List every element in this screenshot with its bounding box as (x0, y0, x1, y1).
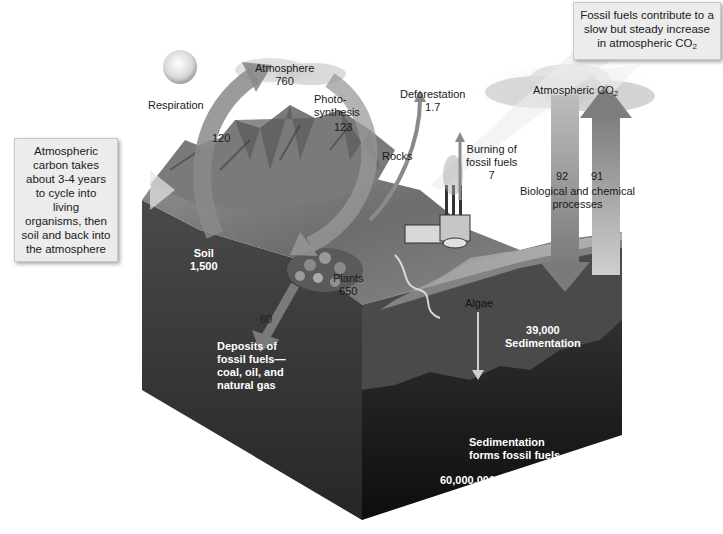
rocks-label: Rocks (382, 150, 413, 163)
callout-line: carbon takes (21, 158, 111, 172)
callout-line: the atmosphere (21, 242, 111, 256)
callout-line: slow but steady increase (580, 22, 714, 36)
atmosphere-value: 760 (255, 75, 314, 88)
ocean-uptake-value: 92 (556, 170, 568, 183)
sedimentation-value: 39,000 (505, 324, 581, 337)
algae-label: Algae (465, 297, 493, 310)
fossil-fuels-callout: Fossil fuels contribute to a slow but st… (573, 2, 721, 60)
sedimentation-label: 39,000 Sedimentation (505, 324, 581, 350)
deposits-value: 60 (260, 313, 272, 326)
soil-value: 1,500 (190, 260, 218, 273)
sedimentation-fossil-label: Sedimentation forms fossil fuels. (469, 436, 563, 462)
callout-line: Fossil fuels contribute to a (580, 8, 714, 22)
biological-chemical-label: Biological and chemical processes (520, 185, 635, 211)
respiration-value: 120 (212, 132, 230, 145)
callout-line: soil and back into (21, 228, 111, 242)
plants-label: Plants 650 (333, 272, 364, 298)
deforestation-label: Deforestation 1.7 (400, 88, 465, 114)
photosynthesis-label: Photo- synthesis (314, 93, 360, 119)
respiration-label: Respiration (148, 99, 204, 112)
carbon-cycle-illustration (0, 0, 723, 534)
sun-icon (163, 50, 197, 84)
atmosphere-label: Atmosphere 760 (255, 62, 314, 88)
deep-carbon-value: 60,000,000 (440, 474, 495, 487)
atmospheric-co2-label: Atmospheric CO2 (533, 84, 618, 100)
callout-line: to cycle into living (21, 186, 111, 214)
plants-value: 650 (333, 285, 364, 298)
soil-label: Soil 1,500 (190, 247, 218, 273)
callout-line: organisms, then (21, 214, 111, 228)
deposits-label: Deposits of fossil fuels— coal, oil, and… (217, 340, 285, 392)
burning-fossil-fuels-label: Burning of fossil fuels 7 (466, 143, 517, 182)
photosynthesis-value: 123 (334, 121, 352, 134)
callout-line: in atmospheric CO2 (580, 36, 714, 54)
callout-line: Atmospheric (21, 144, 111, 158)
ocean-release-value: 91 (591, 170, 603, 183)
burning-value: 7 (466, 169, 517, 182)
callout-line: about 3-4 years (21, 172, 111, 186)
deforestation-value: 1.7 (400, 101, 465, 114)
carbon-cycle-callout: Atmospheric carbon takes about 3-4 years… (14, 138, 118, 262)
